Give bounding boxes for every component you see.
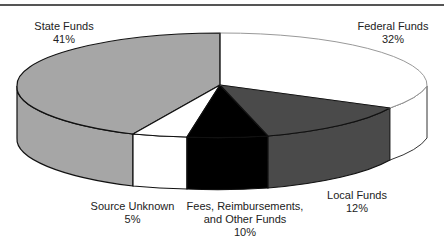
slice-side-unknown [133, 134, 187, 189]
label-state-pct: 41% [28, 33, 100, 46]
slice-side-fees [187, 136, 268, 190]
label-unknown-name: Source Unknown [85, 200, 180, 213]
label-state-name: State Funds [28, 20, 100, 33]
label-fees-line2: and Other Funds [182, 213, 308, 226]
label-state-funds: State Funds 41% [28, 20, 100, 46]
label-fees-pct: 10% [182, 226, 308, 239]
label-fees-line1: Fees, Reimbursements, [182, 200, 308, 213]
label-local-name: Local Funds [322, 189, 392, 202]
label-fees-funds: Fees, Reimbursements, and Other Funds 10… [182, 200, 308, 239]
label-local-funds: Local Funds 12% [322, 189, 392, 215]
label-source-unknown: Source Unknown 5% [85, 200, 180, 226]
label-federal-pct: 32% [353, 33, 433, 46]
label-local-pct: 12% [322, 202, 392, 215]
label-federal-funds: Federal Funds 32% [353, 20, 433, 46]
label-unknown-pct: 5% [85, 213, 180, 226]
label-federal-name: Federal Funds [353, 20, 433, 33]
